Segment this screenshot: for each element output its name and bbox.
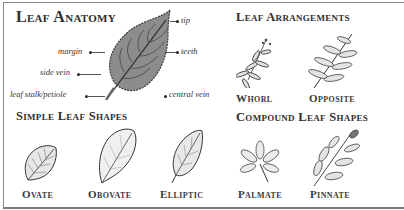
pinnate-leaf-icon xyxy=(306,128,362,188)
tip-dot xyxy=(176,20,179,23)
compound-leaf-shapes-heading: Compound Leaf Shapes xyxy=(236,110,368,125)
palmate-leaf-icon xyxy=(238,140,282,184)
leaf-arrangements-heading: Leaf Arrangements xyxy=(236,10,350,25)
label-margin: margin xyxy=(58,46,82,56)
opposite-leaf-icon xyxy=(308,30,358,90)
label-side-vein: side vein xyxy=(40,67,70,77)
central-vein-dot xyxy=(164,95,167,98)
caption-obovate: Obovate xyxy=(88,188,132,200)
side-vein-leader xyxy=(79,74,101,75)
label-tip: tip xyxy=(181,15,190,25)
caption-whorl: Whorl xyxy=(236,92,273,104)
caption-pinnate: Pinnate xyxy=(310,188,350,200)
petiole-leader xyxy=(87,96,105,97)
margin-leader xyxy=(91,52,105,53)
elliptic-leaf-icon xyxy=(166,129,206,185)
caption-palmate: Palmate xyxy=(238,188,282,200)
label-teeth: teeth xyxy=(181,46,198,56)
teeth-leader xyxy=(165,52,176,53)
caption-ovate: Ovate xyxy=(22,188,53,200)
label-petiole: leaf stalk/petiole xyxy=(10,89,66,99)
ovate-leaf-icon xyxy=(20,142,60,184)
whorl-leaf-icon xyxy=(236,34,276,88)
simple-leaf-shapes-heading: Simple Leaf Shapes xyxy=(16,109,127,124)
obovate-leaf-icon xyxy=(94,127,140,185)
teeth-dot xyxy=(176,51,179,54)
caption-opposite: Opposite xyxy=(309,92,355,104)
label-central-vein: central vein xyxy=(169,89,209,99)
caption-elliptic: Elliptic xyxy=(160,188,203,200)
